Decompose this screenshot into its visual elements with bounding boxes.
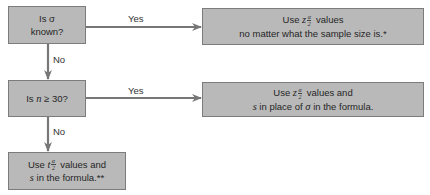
outcome-use-z-with-s: Use zα2 values and s in place of σ in th… (202, 82, 424, 117)
outcome-line1: Use tα2 values and (28, 158, 106, 172)
decision-text: Is n ≥ 30? (26, 92, 68, 105)
alpha-over-2: α2 (51, 158, 55, 171)
edge-label-no-2: No (53, 126, 65, 137)
outcome-line2: s in the formula.** (30, 171, 104, 184)
alpha-over-2: α2 (307, 14, 311, 27)
decision-text-line1: Is σ (39, 12, 55, 25)
decision-sigma-known: Is σ known? (8, 6, 86, 44)
outcome-line2: s in place of σ in the formula. (253, 100, 374, 113)
edge-label-yes-2: Yes (128, 85, 144, 96)
alpha-over-2: α2 (298, 87, 302, 100)
decision-text-line2: known? (31, 25, 64, 38)
outcome-use-t-with-s: Use tα2 values and s in the formula.** (8, 152, 126, 190)
edge-label-yes-1: Yes (128, 13, 144, 24)
outcome-line1: Use zα2 values (283, 13, 344, 27)
outcome-line1: Use zα2 values and (273, 86, 352, 100)
decision-n-ge-30: Is n ≥ 30? (8, 80, 86, 117)
edge-label-no-1: No (53, 54, 65, 65)
outcome-use-z-any-size: Use zα2 values no matter what the sample… (202, 8, 424, 45)
outcome-line2: no matter what the sample size is.* (239, 27, 386, 40)
